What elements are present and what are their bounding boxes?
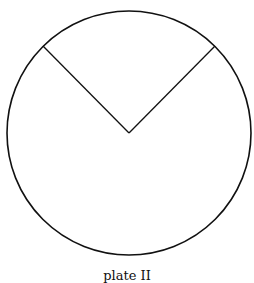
sector-line-right — [129, 46, 215, 133]
figure-caption: plate II — [0, 268, 254, 283]
plate-diagram — [0, 0, 254, 283]
sector-line-left — [43, 46, 129, 133]
